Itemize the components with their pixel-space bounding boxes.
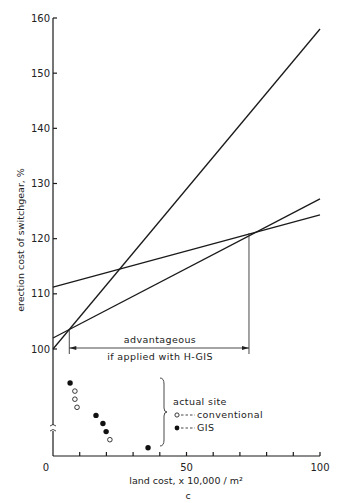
y-tick-label: 150 bbox=[31, 68, 50, 79]
axis-break-mark-top bbox=[50, 425, 56, 427]
chart: 100110120130140150160050100 erection cos… bbox=[0, 0, 337, 503]
legend-label-gis: GIS bbox=[197, 422, 214, 433]
legend-title: actual site bbox=[173, 396, 227, 407]
point-conventional bbox=[108, 437, 113, 442]
y-axis-label: erection cost of switchgear, % bbox=[15, 168, 26, 312]
point-gis bbox=[93, 413, 98, 418]
y-tick-label: 120 bbox=[31, 233, 50, 244]
line-steep bbox=[53, 29, 320, 349]
y-tick-label: 100 bbox=[31, 344, 50, 355]
line-flat bbox=[53, 215, 320, 287]
advantage-arrowhead-right bbox=[242, 346, 249, 350]
point-conventional bbox=[75, 405, 80, 410]
line-middle bbox=[53, 199, 320, 338]
advantage-label-line2: if applied with H-GIS bbox=[107, 351, 213, 362]
legend-marker-gis bbox=[175, 426, 180, 431]
point-gis bbox=[67, 380, 72, 385]
advantage-arrowhead-left bbox=[69, 346, 76, 350]
point-gis bbox=[100, 421, 105, 426]
legend-label-conventional: conventional bbox=[197, 409, 263, 420]
legend-brace bbox=[160, 378, 167, 446]
point-conventional bbox=[73, 397, 78, 402]
legend-marker-conventional bbox=[175, 413, 179, 417]
axis-break-mark-bottom bbox=[50, 430, 56, 432]
axes bbox=[50, 18, 320, 456]
legend bbox=[160, 378, 195, 446]
x-axis-label: land cost, x 10,000 / m² bbox=[129, 475, 243, 486]
scatter-points bbox=[67, 380, 150, 450]
point-conventional bbox=[73, 389, 78, 394]
x-tick-label: 0 bbox=[43, 462, 49, 473]
x-tick-label: 100 bbox=[310, 462, 329, 473]
point-gis bbox=[103, 429, 108, 434]
y-tick-label: 130 bbox=[31, 178, 50, 189]
x-axis-sublabel: c bbox=[185, 490, 190, 501]
x-tick-label: 50 bbox=[180, 462, 193, 473]
series-lines bbox=[53, 29, 320, 349]
point-gis bbox=[145, 445, 150, 450]
y-tick-label: 160 bbox=[31, 13, 50, 24]
advantage-label-line1: advantageous bbox=[124, 334, 196, 345]
y-tick-label: 110 bbox=[31, 288, 50, 299]
y-tick-label: 140 bbox=[31, 123, 50, 134]
